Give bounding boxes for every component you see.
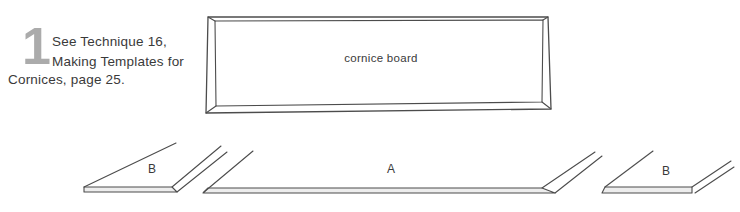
piece-b-left-miter-cut <box>172 146 227 192</box>
piece-b-right-edge-strip <box>602 187 692 193</box>
cornice-board-drawing <box>206 17 551 113</box>
piece-b-right-miter-cut <box>605 151 653 187</box>
piece-b-right-back-edge <box>692 161 734 193</box>
piece-a-edge-strip <box>203 188 555 193</box>
piece-b-left-back-edge <box>84 143 176 187</box>
piece-b-left-edge-strip <box>84 187 177 192</box>
piece-a-right-miter-cut <box>542 152 602 193</box>
piece-a-label: A <box>387 162 395 176</box>
piece-b-right-label: B <box>662 164 670 178</box>
piece-b-left-label: B <box>148 162 156 176</box>
book-page-fragment: 1 See Technique 16, Making Templates for… <box>0 0 740 212</box>
piece-a-drawing <box>203 151 602 193</box>
piece-a-left-miter-cut <box>204 151 253 192</box>
cornice-board-label: cornice board <box>331 52 431 64</box>
cornice-diagram <box>0 0 740 212</box>
